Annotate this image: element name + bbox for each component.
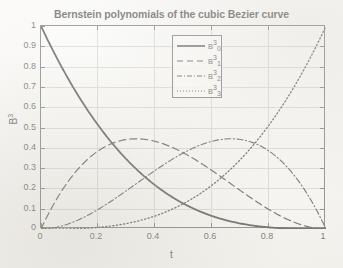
legend-line-solid xyxy=(176,41,206,51)
legend-label-3: B33 xyxy=(208,84,221,97)
xtick-label-0: 0 xyxy=(25,231,55,241)
chart-figure: Bernstein polynomials of the cubic Bezie… xyxy=(0,0,343,268)
curve-B₂³ xyxy=(41,139,326,229)
y-axis-title: B3 xyxy=(7,102,19,136)
legend-label-2: B32 xyxy=(208,69,221,82)
legend-label-1: B31 xyxy=(208,54,221,67)
legend-item-2: B32 xyxy=(173,68,223,83)
legend-item-1: B31 xyxy=(173,53,223,68)
chart-title: Bernstein polynomials of the cubic Bezie… xyxy=(0,8,343,20)
ytick-label-0.9: 0.9 xyxy=(10,40,36,50)
ytick-label-0.8: 0.8 xyxy=(10,61,36,71)
xtick-label-0.6: 0.6 xyxy=(195,231,225,241)
legend-line-dotted xyxy=(176,86,206,96)
legend-item-3: B33 xyxy=(173,83,223,98)
legend-line-dashed xyxy=(176,56,206,66)
legend-label-0: B30 xyxy=(208,39,221,52)
xtick-label-0.4: 0.4 xyxy=(138,231,168,241)
xtick-label-0.2: 0.2 xyxy=(81,231,111,241)
ytick-label-0.2: 0.2 xyxy=(10,182,36,192)
ytick-label-0.7: 0.7 xyxy=(10,81,36,91)
y-axis-title-exponent: 3 xyxy=(7,114,14,118)
ytick-label-0.3: 0.3 xyxy=(10,162,36,172)
ytick-label-0.4: 0.4 xyxy=(10,142,36,152)
legend-line-dashdot xyxy=(176,71,206,81)
xtick-label-0.8: 0.8 xyxy=(252,231,282,241)
legend-item-0: B30 xyxy=(173,38,223,53)
x-axis-title: t xyxy=(0,249,343,260)
y-axis-title-base: B xyxy=(8,118,19,125)
xtick-label-1: 1 xyxy=(308,231,338,241)
ytick-label-1: 1 xyxy=(10,20,36,30)
legend: B30 B31 B32 B33 xyxy=(172,35,222,98)
ytick-label-0: 0 xyxy=(10,222,36,232)
ytick-label-0.1: 0.1 xyxy=(10,203,36,213)
